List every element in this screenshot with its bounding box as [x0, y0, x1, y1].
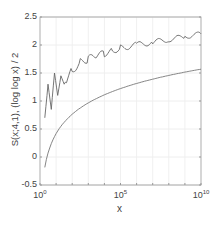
x-axis-label: x: [117, 203, 122, 214]
series-line-1: [45, 69, 201, 167]
x-tick-label: 100: [20, 189, 60, 200]
y-axis-label: S(x;4,1), (log log x) / 2: [9, 30, 20, 170]
y-tick-label: 2.5: [7, 11, 37, 21]
y-tick-label: -0.5: [7, 179, 37, 189]
x-tick-label: 105: [101, 189, 141, 200]
chart: 2.521.510.50-0.5 1001051010 S(x;4,1), (l…: [0, 0, 222, 225]
x-tick-label: 1010: [181, 189, 221, 200]
